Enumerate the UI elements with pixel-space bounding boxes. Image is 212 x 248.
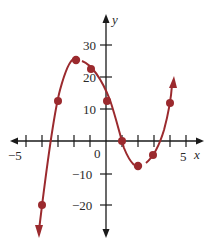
y-tick-label-neg10: −10 xyxy=(72,167,92,182)
y-axis-arrow-down-icon xyxy=(103,229,110,238)
point-neg4 xyxy=(38,201,46,209)
point-3 xyxy=(149,151,157,159)
y-tick-label-neg20: −20 xyxy=(72,198,92,213)
point-neg1 xyxy=(87,65,95,73)
point-4 xyxy=(166,99,174,107)
curve-arrow-up-icon xyxy=(169,76,177,88)
point-0 xyxy=(103,97,111,105)
y-tick-label-10: 10 xyxy=(83,102,96,117)
x-axis-arrow-left-icon xyxy=(10,138,18,145)
y-axis-arrow-up-icon xyxy=(103,14,110,23)
x-axis-arrow-right-icon xyxy=(196,138,204,145)
x-tick-label-5: 5 xyxy=(180,149,187,164)
y-axis-label: y xyxy=(110,12,118,27)
point-neg2 xyxy=(72,56,80,64)
x-axis xyxy=(10,135,204,147)
point-neg3 xyxy=(54,97,62,105)
point-2 xyxy=(134,162,142,170)
cubic-graph: y x −5 5 0 30 20 10 −10 −20 xyxy=(0,0,212,248)
point-1 xyxy=(118,137,126,145)
y-axis xyxy=(100,14,112,238)
x-tick-label-neg5: −5 xyxy=(8,148,22,163)
origin-label: 0 xyxy=(94,146,101,161)
y-tick-label-30: 30 xyxy=(83,38,96,53)
x-axis-label: x xyxy=(193,147,200,162)
curve-arrow-down-icon xyxy=(35,225,43,238)
